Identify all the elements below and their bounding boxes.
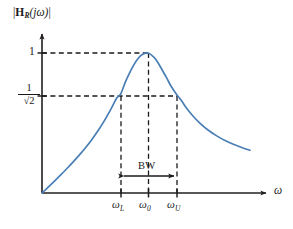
- x-tick-symbol-omega-upper: ω: [167, 198, 175, 210]
- x-tick-label-omega-lower: ωL: [112, 199, 124, 212]
- y-axis-label-bar-close: |: [48, 6, 50, 18]
- y-tick-label-one: 1: [29, 46, 35, 58]
- y-tick-label-half-power: 1 √2: [18, 82, 40, 107]
- x-tick-symbol-omega-center: ω: [139, 198, 147, 210]
- y-axis-label-arg: (jω): [29, 6, 48, 18]
- x-tick-subscript-omega-lower: L: [120, 204, 124, 213]
- figure-magnitude-response: |HR(jω)| 1 1 √2 ω BW ωL ω0 ωU: [0, 0, 293, 229]
- x-tick-label-omega-center: ω0: [139, 199, 151, 212]
- bandwidth-label: BW: [138, 161, 155, 172]
- fraction-numerator: 1: [18, 82, 40, 93]
- x-tick-label-omega-upper: ωU: [167, 199, 181, 212]
- plot-canvas: [0, 0, 293, 229]
- y-axis-label-H: H: [15, 6, 24, 18]
- x-tick-subscript-omega-upper: U: [175, 204, 180, 213]
- x-axis-label: ω: [274, 185, 282, 197]
- y-axis-label: |HR(jω)|: [13, 7, 51, 20]
- magnitude-response-curve: [42, 53, 250, 193]
- fraction-denominator: √2: [18, 95, 40, 107]
- x-tick-symbol-omega-lower: ω: [112, 198, 120, 210]
- x-tick-subscript-omega-center: 0: [147, 204, 151, 213]
